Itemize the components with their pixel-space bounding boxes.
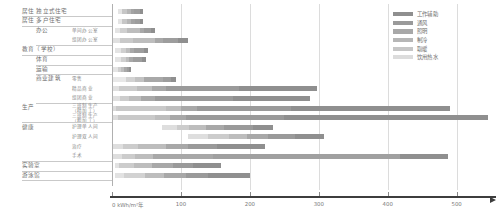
bar-row xyxy=(115,57,147,62)
row-separator xyxy=(22,180,112,181)
bar-row xyxy=(113,115,487,120)
bar-segment xyxy=(268,134,296,139)
bar-segment xyxy=(186,115,284,120)
legend-item[interactable]: 制冷 xyxy=(393,36,501,45)
bar-segment xyxy=(155,38,163,43)
energy-consumption-bar-chart: 居住 独立式住宅居住 多户住宅办公单间办公室组团办公室教育（学校）体育运输商业建… xyxy=(0,0,504,221)
bar-segment xyxy=(129,67,130,72)
bar-segment xyxy=(178,38,188,43)
row-label-main: 生产 xyxy=(22,104,34,110)
legend-item[interactable]: 饮用热水 xyxy=(393,53,501,62)
bar-row xyxy=(118,9,143,14)
row-label-main: 教育（学校） xyxy=(22,46,59,52)
x-tick-label-100: 100 xyxy=(176,201,186,207)
legend-label: 饮用热水 xyxy=(417,53,438,61)
bar-segment xyxy=(113,77,125,82)
bar-segment xyxy=(113,96,120,101)
bar-segment xyxy=(153,154,212,159)
legend-item[interactable]: 照明 xyxy=(393,27,501,36)
bar-segment xyxy=(123,144,138,149)
bar-segment xyxy=(181,106,198,111)
row-label-sub: 单间办公室 xyxy=(72,28,98,34)
bar-segment xyxy=(135,77,143,82)
bar-row xyxy=(113,106,450,111)
legend-item[interactable]: 取暖 xyxy=(393,44,501,53)
bar-segment xyxy=(193,163,221,168)
row-label-sub-line: 护理双人间 xyxy=(72,134,98,140)
bar-segment xyxy=(189,125,206,130)
row-label-main: 实验室 xyxy=(22,162,41,168)
bar-segment xyxy=(247,134,268,139)
row-label-sub-line: 组团商业 xyxy=(72,95,93,101)
bar-segment xyxy=(119,163,134,168)
legend-swatch-icon xyxy=(393,21,413,25)
bar-segment xyxy=(120,28,127,33)
legend-label: 取暖 xyxy=(417,45,427,53)
legend-swatch-icon xyxy=(393,29,413,33)
row-label-sub-line: 组团办公室 xyxy=(72,37,98,43)
legend-swatch-icon xyxy=(393,12,413,16)
row-label-sub: 组团办公室 xyxy=(72,37,98,43)
bar-segment xyxy=(217,144,265,149)
bar-segment xyxy=(164,173,186,178)
bar-segment xyxy=(119,86,137,91)
x-tick-label-500: 500 xyxy=(451,201,461,207)
row-separator xyxy=(22,122,112,123)
bar-segment xyxy=(163,77,171,82)
bar-segment xyxy=(126,77,136,82)
legend-swatch-icon xyxy=(393,47,413,51)
bar-segment xyxy=(166,86,240,91)
bar-segment xyxy=(113,38,120,43)
category-label-column: 居住 独立式住宅居住 多户住宅办公单间办公室组团办公室教育（学校）体育运输商业建… xyxy=(0,0,112,190)
x-tick-label-200: 200 xyxy=(245,201,255,207)
row-label-sub: 手术 xyxy=(72,153,82,159)
bar-segment xyxy=(133,38,155,43)
bar-segment xyxy=(188,144,217,149)
x-tick-500 xyxy=(457,192,458,196)
bar-segment xyxy=(118,115,155,120)
legend-item[interactable]: 工作辅助 xyxy=(393,10,501,19)
bar-segment xyxy=(171,77,176,82)
bar-segment xyxy=(163,38,178,43)
bar-row xyxy=(113,96,310,101)
bar-segment xyxy=(186,173,208,178)
row-label-sub: 零售 xyxy=(72,76,82,82)
x-tick-label-400: 400 xyxy=(383,201,393,207)
bar-segment xyxy=(141,96,155,101)
row-label-main: 游泳馆 xyxy=(22,172,41,178)
bar-row xyxy=(162,125,274,130)
bar-segment xyxy=(291,106,450,111)
bar-segment xyxy=(162,125,177,130)
bar-row xyxy=(118,19,143,24)
legend-item[interactable]: 通风 xyxy=(393,19,501,28)
row-label-sub-line: 精品商业 xyxy=(72,86,93,92)
bar-segment xyxy=(400,154,448,159)
bar-segment xyxy=(253,125,273,130)
bar-segment xyxy=(152,86,166,91)
bar-segment xyxy=(170,115,187,120)
bar-segment xyxy=(127,28,139,33)
bar-segment xyxy=(224,125,253,130)
legend-label: 制冷 xyxy=(417,36,427,44)
legend-swatch-icon xyxy=(393,38,413,42)
row-label-main: 居住 多户住宅 xyxy=(22,17,61,23)
bar-segment xyxy=(229,134,247,139)
row-label-main: 办公 xyxy=(36,27,48,33)
bar-segment xyxy=(284,115,487,120)
row-label-main: 体育 xyxy=(36,56,48,62)
bar-segment xyxy=(135,154,153,159)
row-label-main: 运输 xyxy=(36,66,48,72)
bar-segment xyxy=(129,96,141,101)
x-axis-unit-label: 0 kWh/m²年 xyxy=(112,201,143,209)
bar-row xyxy=(115,173,250,178)
bar-row xyxy=(113,86,316,91)
bar-segment xyxy=(233,96,311,101)
x-tick-300 xyxy=(319,192,320,196)
x-tick-200 xyxy=(250,192,251,196)
bar-segment xyxy=(206,125,225,130)
bar-segment xyxy=(239,86,316,91)
bar-segment xyxy=(134,48,144,53)
row-label-main: 商业建筑 xyxy=(36,75,61,81)
legend-swatch-icon xyxy=(393,55,413,59)
bar-segment xyxy=(208,173,249,178)
